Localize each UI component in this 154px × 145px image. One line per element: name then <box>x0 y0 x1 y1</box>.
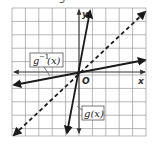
svg-text:(x): (x) <box>47 55 61 66</box>
svg-text:g(x): g(x) <box>84 108 104 119</box>
origin-label: O <box>82 76 90 86</box>
x-axis-label: x <box>137 76 145 86</box>
coordinate-graph: g −1 (x) g(x) y x O <box>0 0 154 145</box>
label-g: g(x) <box>77 106 104 120</box>
label-g-inverse: g −1 (x) <box>30 53 63 76</box>
